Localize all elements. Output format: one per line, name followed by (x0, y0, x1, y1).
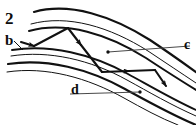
diagram-canvas (0, 0, 196, 125)
lower-band-line-4 (7, 70, 178, 125)
lower-band-group (7, 48, 196, 125)
figure-number-label: 2 (5, 10, 14, 27)
ray-segment-5 (102, 71, 129, 72)
label-b: b (5, 33, 13, 48)
leader-dot-c (106, 50, 109, 53)
label-c: c (184, 38, 190, 52)
figure-diagram: 2 b c d (0, 0, 196, 125)
ray-segment-1 (21, 42, 34, 46)
ray-segment-7 (155, 70, 166, 86)
ray-segment-2 (34, 28, 68, 46)
label-d: d (71, 83, 79, 97)
upper-band-line-3 (29, 28, 196, 90)
leader-line-d (70, 92, 140, 94)
ray-segment-4 (81, 45, 102, 72)
ray-segment-6 (129, 70, 155, 71)
leader-dot-d (138, 90, 141, 93)
